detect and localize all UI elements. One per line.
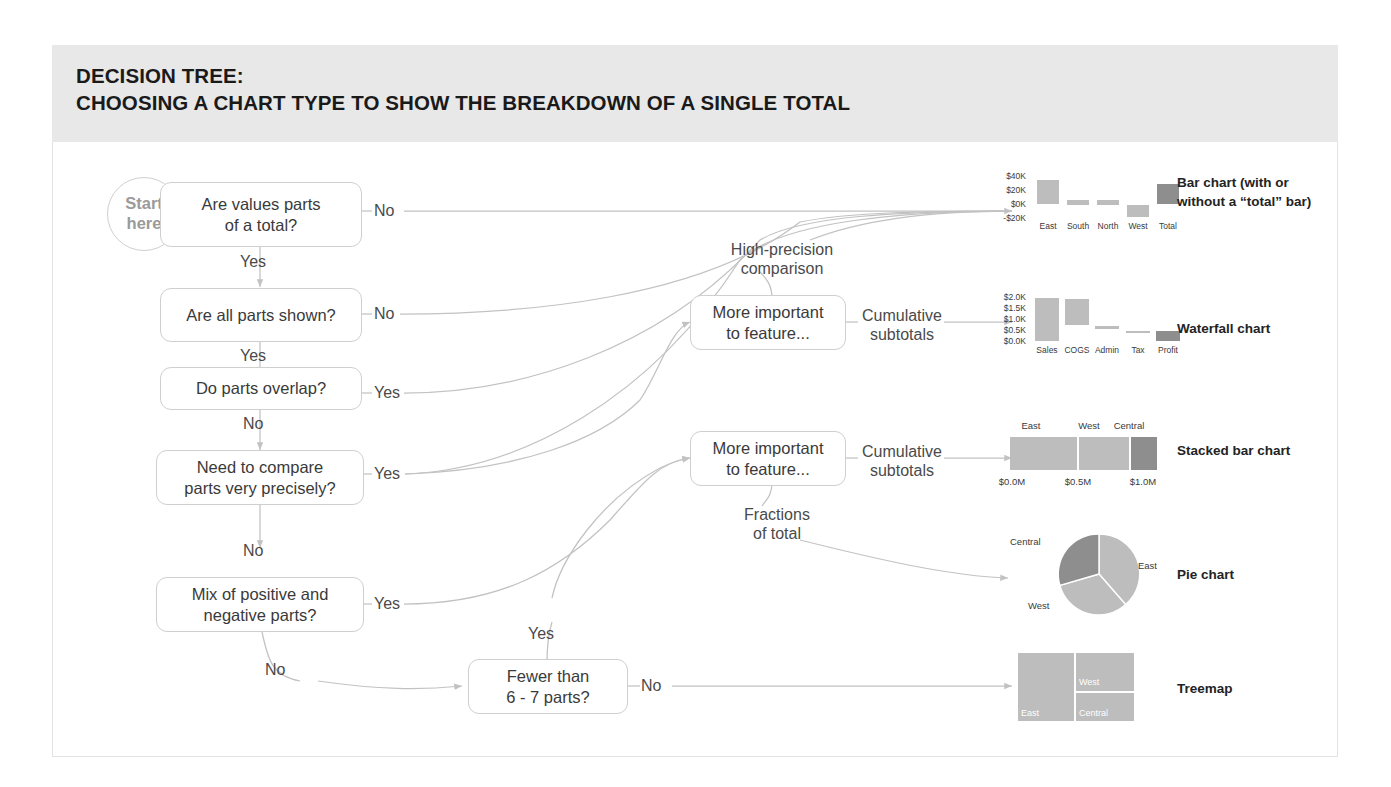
pie-label-central: Central	[1010, 536, 1041, 547]
q5-line1: Mix of positive and	[184, 584, 337, 604]
caption-bar-chart: Bar chart (with or without a “total” bar…	[1177, 174, 1327, 211]
q4-line1: Need to compare	[176, 457, 343, 477]
q4-line2: parts very precisely?	[176, 478, 343, 498]
bar-cat-east: East	[1033, 221, 1063, 231]
waterfall-chart-thumbnail: $2.0K $1.5K $1.0K $0.5K $0.0K Sales COGS…	[990, 290, 1170, 366]
wf-ytick-3: $0.5K	[990, 325, 1026, 335]
treemap-label-central: Central	[1079, 708, 1108, 718]
edge-label-q3-no: No	[243, 414, 263, 433]
pie-label-west: West	[1028, 600, 1049, 611]
node-mix-of-positive-and-negative-parts[interactable]: Mix of positive and negative parts?	[156, 577, 364, 632]
wf-ytick-2: $1.0K	[990, 314, 1026, 324]
q2-line1: Are all parts shown?	[178, 305, 344, 325]
edge-label-q1-yes: Yes	[240, 252, 266, 271]
bar-cat-south: South	[1063, 221, 1093, 231]
edge-label-q2-yes: Yes	[240, 346, 266, 365]
sb-seg-label-central: Central	[1102, 420, 1156, 431]
wf-bar-cogs	[1065, 299, 1089, 325]
wf-cat-cogs: COGS	[1060, 345, 1094, 355]
edge-label-q6-no: No	[641, 676, 661, 695]
hpc-line2: comparison	[712, 259, 852, 278]
edge-label-q2-no: No	[374, 304, 394, 323]
node-more-important-to-feature-waterfall[interactable]: More important to feature...	[690, 295, 846, 350]
bar-west	[1127, 205, 1149, 217]
fot-line1: Fractions	[722, 505, 832, 524]
wf-bar-tax	[1126, 331, 1150, 333]
treemap-label-west: West	[1079, 677, 1099, 687]
edge-label-q1-no: No	[374, 201, 394, 220]
node-more-important-to-feature-stacked[interactable]: More important to feature...	[690, 431, 846, 486]
edge-label-q3-yes: Yes	[374, 383, 400, 402]
infographic-root: DECISION TREE: CHOOSING A CHART TYPE TO …	[0, 0, 1391, 787]
bar-north	[1097, 200, 1119, 205]
q5-line2: negative parts?	[184, 605, 337, 625]
bar-ytick-1: $20K	[990, 185, 1026, 195]
bar-chart-thumbnail: $40K $20K $0K -$20K East South North Wes…	[990, 168, 1170, 238]
stacked-bar-chart-thumbnail: East West Central $0.0M $0.5M $1.0M	[990, 420, 1180, 496]
q6-line2: 6 - 7 parts?	[498, 687, 597, 707]
bar-ytick-3: -$20K	[990, 213, 1026, 223]
edge-label-high-precision-comparison: High-precision comparison	[712, 240, 852, 278]
q6-line1: Fewer than	[498, 666, 597, 686]
bar-south	[1067, 200, 1089, 205]
bar-cat-north: North	[1093, 221, 1123, 231]
f1-line2: to feature...	[705, 323, 832, 343]
page-title-line1: DECISION TREE:	[76, 62, 1226, 89]
wf-bar-sales	[1035, 298, 1059, 341]
wf-cat-profit: Profit	[1151, 345, 1185, 355]
bar-ytick-2: $0K	[990, 199, 1026, 209]
pie-label-east: East	[1138, 560, 1157, 571]
wf-ytick-1: $1.5K	[990, 303, 1026, 313]
bar-cat-west: West	[1123, 221, 1153, 231]
bar-cat-total: Total	[1153, 221, 1183, 231]
wf-cat-tax: Tax	[1121, 345, 1155, 355]
node-fewer-than-6-7-parts[interactable]: Fewer than 6 - 7 parts?	[468, 659, 628, 714]
node-need-to-compare-parts-very-precisely[interactable]: Need to compare parts very precisely?	[156, 450, 364, 505]
start-line1: Start	[125, 194, 163, 214]
caption-treemap: Treemap	[1177, 680, 1327, 699]
cs1-line1: Cumulative	[857, 306, 947, 325]
wf-cat-admin: Admin	[1090, 345, 1124, 355]
cs1-line2: subtotals	[857, 325, 947, 344]
cs2-line2: subtotals	[857, 461, 947, 480]
pie-svg	[1052, 530, 1146, 618]
wf-ytick-4: $0.0K	[990, 336, 1026, 346]
sb-seg-label-east: East	[1006, 420, 1056, 431]
page-title-line2: CHOOSING A CHART TYPE TO SHOW THE BREAKD…	[76, 89, 1226, 116]
hpc-line1: High-precision	[712, 240, 852, 259]
node-are-values-parts-of-a-total[interactable]: Are values parts of a total?	[160, 182, 362, 247]
edge-label-fractions-of-total: Fractions of total	[722, 505, 832, 543]
sb-xtick-0: $0.0M	[990, 476, 1034, 487]
bar-east	[1037, 180, 1059, 204]
bar-ytick-0: $40K	[990, 171, 1026, 181]
q1-line2: of a total?	[193, 215, 328, 235]
sb-seg-central	[1131, 437, 1157, 470]
sb-seg-west	[1079, 437, 1129, 470]
page-title: DECISION TREE: CHOOSING A CHART TYPE TO …	[76, 62, 1226, 117]
edge-label-q5-no: No	[265, 660, 285, 679]
fot-line2: of total	[722, 524, 832, 543]
cs2-line1: Cumulative	[857, 442, 947, 461]
edge-label-q5-yes: Yes	[374, 594, 400, 613]
f2-line2: to feature...	[705, 459, 832, 479]
wf-bar-admin	[1095, 326, 1119, 329]
wf-ytick-0: $2.0K	[990, 292, 1026, 302]
treemap-thumbnail: East West Central	[1018, 653, 1188, 725]
sb-seg-east	[1010, 437, 1077, 470]
sb-xtick-1: $0.5M	[1056, 476, 1100, 487]
treemap-label-east: East	[1021, 708, 1039, 718]
edge-label-cumulative-subtotals-waterfall: Cumulative subtotals	[857, 306, 947, 344]
q3-line1: Do parts overlap?	[188, 378, 334, 398]
edge-label-q4-yes: Yes	[374, 464, 400, 483]
f1-line1: More important	[705, 302, 832, 322]
caption-stacked-bar-chart: Stacked bar chart	[1177, 442, 1327, 461]
node-are-all-parts-shown[interactable]: Are all parts shown?	[160, 288, 362, 342]
wf-cat-sales: Sales	[1030, 345, 1064, 355]
sb-xtick-2: $1.0M	[1121, 476, 1165, 487]
start-line2: here	[125, 214, 163, 234]
f2-line1: More important	[705, 438, 832, 458]
caption-waterfall-chart: Waterfall chart	[1177, 320, 1327, 339]
bar-total	[1157, 184, 1179, 204]
q1-line1: Are values parts	[193, 194, 328, 214]
node-do-parts-overlap[interactable]: Do parts overlap?	[160, 367, 362, 410]
